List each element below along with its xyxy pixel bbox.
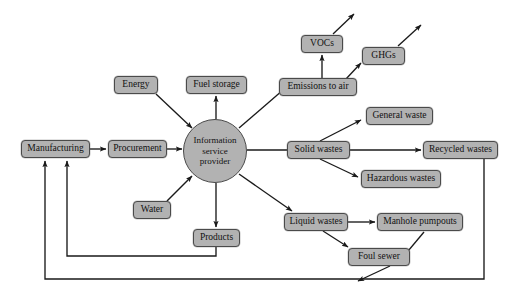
node-general-waste[interactable]: General waste [366,107,433,125]
node-label: Water [141,205,163,215]
node-liquid-wastes[interactable]: Liquid wastes [284,213,348,231]
node-label: Energy [122,80,149,90]
node-label: Products [200,233,233,243]
edge-water-hub [167,176,192,201]
edge-liquid-foulsewer [323,231,348,247]
node-label: Manhole pumpouts [383,217,457,227]
node-information-service-provider[interactable]: Information service provider [183,119,247,183]
node-label: GHGs [371,51,395,61]
node-label: Manufacturing [27,144,83,154]
node-label: Foul sewer [358,252,400,262]
hub-label-line3: provider [200,156,231,167]
node-ghgs[interactable]: GHGs [362,47,405,65]
hub-label-line2: service [202,146,227,157]
node-products[interactable]: Products [193,229,240,247]
hub-label-line1: Information [194,135,237,146]
edge-energy-hub [156,94,192,128]
edge-hub-emissions [239,90,283,128]
node-fuel-storage[interactable]: Fuel storage [186,76,247,94]
node-vocs[interactable]: VOCs [301,35,343,53]
node-emissions-to-air[interactable]: Emissions to air [279,78,357,96]
node-label: Emissions to air [287,82,348,92]
node-label: Procurement [113,144,162,154]
node-procurement[interactable]: Procurement [108,140,167,158]
node-water[interactable]: Water [133,201,171,219]
edge-solid-hazardous [320,159,358,177]
node-label: Recycled wastes [429,145,492,155]
node-hazardous-wastes[interactable]: Hazardous wastes [361,170,441,188]
node-solid-wastes[interactable]: Solid wastes [287,141,350,159]
node-manufacturing[interactable]: Manufacturing [21,140,90,158]
edge-solid-general [320,120,361,141]
diagram-canvas: Manufacturing Procurement Energy Fuel st… [0,0,515,297]
node-label: General waste [372,111,426,121]
node-label: Liquid wastes [289,217,342,227]
edge-hub-liquidwastes [239,174,292,211]
node-label: Hazardous wastes [367,174,435,184]
edge-ghgs-environment [398,25,421,46]
edge-vocs-environment [333,14,354,34]
node-manhole-pumpouts[interactable]: Manhole pumpouts [377,213,463,231]
node-energy[interactable]: Energy [114,76,158,94]
node-label: Fuel storage [193,80,240,90]
node-recycled-wastes[interactable]: Recycled wastes [423,141,498,159]
node-foul-sewer[interactable]: Foul sewer [348,248,410,266]
node-label: Solid wastes [295,145,343,155]
node-label: VOCs [310,39,334,49]
